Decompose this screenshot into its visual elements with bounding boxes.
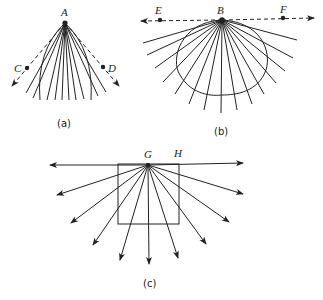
point-a xyxy=(62,20,67,25)
panel-b-ray xyxy=(222,20,276,83)
panel-c-ray-arrow xyxy=(57,165,148,195)
point-g xyxy=(146,163,150,167)
label-c: C xyxy=(14,62,22,74)
panel-c-ray-arrow xyxy=(148,165,178,258)
panel-b: B E F (b) xyxy=(141,3,314,137)
caption-a: (a) xyxy=(57,118,71,129)
point-f xyxy=(281,16,285,20)
panel-c-ray-arrow xyxy=(120,165,148,260)
panel-b-ray xyxy=(221,20,222,113)
point-c xyxy=(25,66,29,70)
panel-c-ray-arrow xyxy=(148,165,229,222)
point-d xyxy=(101,65,105,69)
panel-b-dashed-line-right xyxy=(222,18,314,20)
panel-c-rays xyxy=(57,165,243,264)
diagram-svg: A C D (a) B E F (b) G H (c) xyxy=(0,0,323,300)
label-f: F xyxy=(279,3,287,15)
label-g: G xyxy=(144,148,152,160)
label-h: H xyxy=(173,147,183,159)
panel-c-ray-arrow xyxy=(148,165,206,244)
panel-c: G H (c) xyxy=(50,147,243,289)
label-e: E xyxy=(154,4,162,16)
panel-c-ray-arrow xyxy=(71,165,148,223)
label-b: B xyxy=(217,4,224,16)
caption-c: (c) xyxy=(143,278,156,289)
panel-a-ray xyxy=(65,23,106,92)
figure-canvas: A C D (a) B E F (b) G H (c) xyxy=(0,0,323,300)
panel-a: A C D (a) xyxy=(12,6,119,129)
label-d: D xyxy=(107,62,116,74)
panel-c-ray-arrow xyxy=(148,165,149,264)
panel-a-ray xyxy=(26,23,65,93)
caption-b: (b) xyxy=(214,126,228,137)
panel-c-ray-arrow xyxy=(93,165,148,245)
point-e xyxy=(158,18,162,22)
panel-c-ray-arrow xyxy=(148,165,243,194)
panel-a-rays xyxy=(26,23,106,100)
panel-a-dashed-line-left xyxy=(12,23,65,86)
panel-b-dashed-line-left xyxy=(141,20,222,21)
point-b xyxy=(219,17,225,23)
panel-b-rays xyxy=(143,20,297,113)
label-a: A xyxy=(60,6,68,18)
panel-b-ray xyxy=(155,20,222,68)
